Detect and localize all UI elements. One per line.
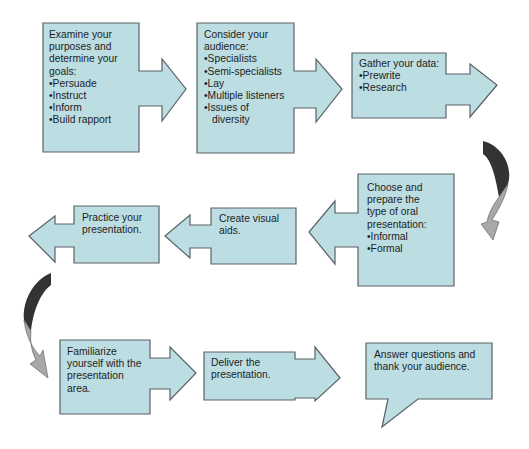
step-practice-heading-1: presentation.	[82, 224, 142, 236]
step-choose: Choose and prepare the type of oral pres…	[367, 182, 427, 255]
step-familiarize-heading-1: yourself with the	[67, 358, 141, 370]
curved-arrow-left-icon	[24, 273, 51, 378]
step-answer: Answer questions and thank your audience…	[374, 349, 475, 373]
step-consider-bullet: Specialists	[204, 53, 284, 65]
step-examine-bullet: Build rapport	[49, 114, 118, 126]
step-familiarize-heading-3: area.	[67, 383, 141, 395]
step-examine-heading-3: goals:	[49, 66, 118, 78]
step-examine-heading-1: purposes and	[49, 41, 118, 53]
step-choose-bullet: Formal	[367, 243, 427, 255]
step-consider-bullet: Semi-specialists	[204, 66, 284, 78]
step-deliver-heading-0: Deliver the	[211, 357, 271, 369]
step-examine: Examine your purposes and determine your…	[49, 29, 118, 127]
curved-arrow-right-icon	[481, 141, 509, 240]
step-consider-heading-0: Consider your	[204, 29, 284, 41]
step-choose-heading-0: Choose and	[367, 182, 427, 194]
step-choose-heading-1: prepare the	[367, 194, 427, 206]
step-deliver: Deliver the presentation.	[211, 357, 271, 381]
step-create-heading-0: Create visual	[219, 213, 279, 225]
step-gather-bullet: Research	[359, 82, 439, 94]
step-practice-heading-0: Practice your	[82, 212, 142, 224]
step-examine-heading-0: Examine your	[49, 29, 118, 41]
step-choose-heading-2: type of oral	[367, 206, 427, 218]
step-choose-heading-3: presentation:	[367, 219, 427, 231]
step-consider-bullet: Issues of	[204, 102, 284, 114]
step-gather: Gather your data: Prewrite Research	[359, 58, 439, 95]
step-examine-bullet: Inform	[49, 102, 118, 114]
step-create: Create visual aids.	[219, 213, 279, 237]
step-familiarize: Familiarize yourself with the presentati…	[67, 346, 141, 395]
step-familiarize-heading-0: Familiarize	[67, 346, 141, 358]
step-answer-heading-0: Answer questions and	[374, 349, 475, 361]
step-consider-heading-1: audience:	[204, 41, 284, 53]
step-consider-bullet-continuation: diversity	[204, 114, 284, 126]
step-examine-bullet: Instruct	[49, 90, 118, 102]
step-consider: Consider your audience: Specialists Semi…	[204, 29, 284, 127]
step-create-heading-1: aids.	[219, 225, 279, 237]
step-gather-heading-0: Gather your data:	[359, 58, 439, 70]
step-practice: Practice your presentation.	[82, 212, 142, 236]
step-consider-bullet: Lay	[204, 78, 284, 90]
step-gather-bullet: Prewrite	[359, 70, 439, 82]
step-examine-bullet: Persuade	[49, 78, 118, 90]
step-deliver-heading-1: presentation.	[211, 369, 271, 381]
step-choose-bullet: Informal	[367, 231, 427, 243]
step-examine-heading-2: determine your	[49, 53, 118, 65]
step-familiarize-heading-2: presentation	[67, 370, 141, 382]
step-answer-heading-1: thank your audience.	[374, 361, 475, 373]
step-consider-bullet: Multiple listeners	[204, 90, 284, 102]
